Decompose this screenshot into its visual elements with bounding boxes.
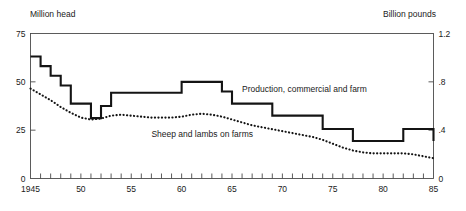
- right-tick-label-1.2: 1.2: [439, 29, 451, 39]
- x-tick-label-80: 80: [378, 184, 388, 194]
- x-tick-label-75: 75: [328, 184, 338, 194]
- x-axis-tick-labels: 19455055606570758085: [21, 184, 438, 194]
- sheep-production-chart: Million head Billion pounds 0255075 0.4.…: [0, 0, 466, 211]
- x-tick-label-1945: 1945: [21, 184, 40, 194]
- left-axis-tick-labels: 0255075: [16, 29, 26, 184]
- right-tick-label-.8: .8: [439, 77, 446, 87]
- chart-canvas: Million head Billion pounds 0255075 0.4.…: [0, 0, 466, 211]
- x-tick-label-85: 85: [429, 184, 439, 194]
- series-label-sheep: Sheep and lambs on farms: [151, 129, 253, 139]
- x-tick-label-60: 60: [177, 184, 187, 194]
- right-tick-label-0: 0: [439, 174, 444, 184]
- right-axis-unit-label: Billion pounds: [383, 9, 436, 19]
- x-tick-label-65: 65: [227, 184, 237, 194]
- x-tick-label-70: 70: [278, 184, 288, 194]
- x-tick-label-55: 55: [127, 184, 137, 194]
- right-axis-ticks: [429, 82, 434, 130]
- x-axis-ticks: [41, 174, 424, 179]
- right-axis-tick-labels: 0.4.81.2: [439, 29, 451, 184]
- left-tick-label-25: 25: [16, 125, 26, 135]
- x-tick-label-50: 50: [76, 184, 86, 194]
- left-tick-label-50: 50: [16, 77, 26, 87]
- left-tick-label-75: 75: [16, 29, 26, 39]
- left-axis-unit-label: Million head: [30, 9, 76, 19]
- left-tick-label-0: 0: [21, 174, 26, 184]
- series-label-production: Production, commercial and farm: [242, 84, 367, 94]
- right-tick-label-.4: .4: [439, 125, 446, 135]
